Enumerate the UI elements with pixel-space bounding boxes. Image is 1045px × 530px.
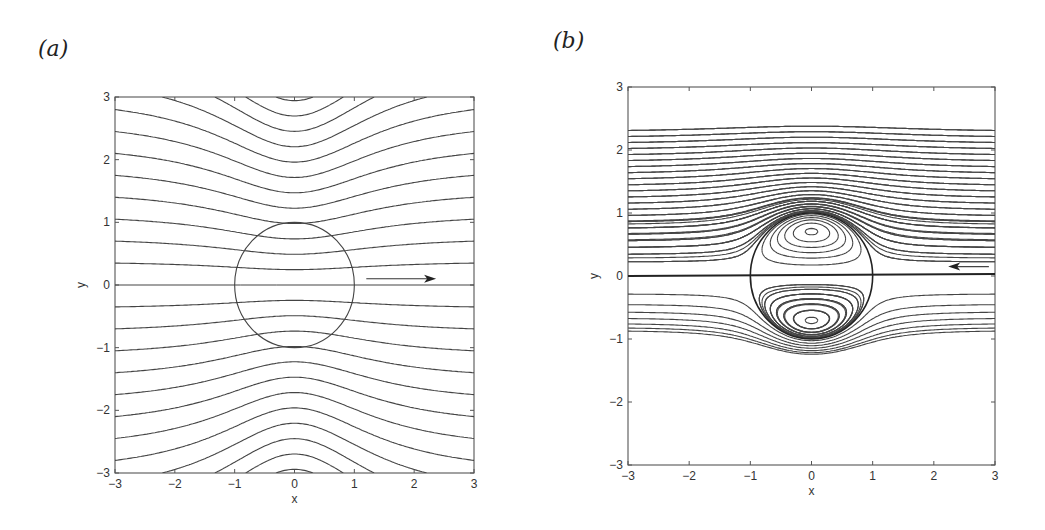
streamline xyxy=(628,132,995,137)
figure-canvas: −3−2−10123−3−2−10123xy −3−2−10123−3−2−10… xyxy=(0,0,1045,530)
streamline xyxy=(628,126,995,130)
plot-b-xlabel: x xyxy=(809,484,815,498)
streamline xyxy=(115,132,474,178)
streamline xyxy=(628,218,995,346)
streamline xyxy=(628,178,995,191)
streamline xyxy=(215,439,374,473)
plot-a-xtick-label: 3 xyxy=(471,477,478,491)
streamline xyxy=(628,153,995,160)
streamline xyxy=(115,241,474,254)
plot-b-xtick-label: 0 xyxy=(808,469,815,483)
plot-a-ytick-label: 2 xyxy=(103,153,110,167)
plot-b-dividing-streamline xyxy=(628,274,995,276)
plot-b-xtick-label: −2 xyxy=(682,469,696,483)
plot-b-ytick-label: 3 xyxy=(616,80,623,94)
plot-b-xtick-label: 3 xyxy=(992,469,999,483)
streamline xyxy=(115,263,474,270)
plot-a-xtick-label: −2 xyxy=(168,477,182,491)
plot-b-ytick-label: 0 xyxy=(616,269,623,283)
streamline xyxy=(115,300,474,307)
streamline xyxy=(162,423,426,473)
plot-b-ytick-label: 2 xyxy=(616,143,623,157)
streamline xyxy=(628,173,995,184)
streamline xyxy=(115,347,474,373)
plot-b-ytick-label: −3 xyxy=(609,458,623,472)
plot-a-ytick-label: 1 xyxy=(103,215,110,229)
streamline xyxy=(215,97,374,131)
plot-a-ytick-label: −3 xyxy=(96,466,110,480)
streamline xyxy=(162,97,426,147)
plot-a-xtick-label: −1 xyxy=(228,477,242,491)
streamline xyxy=(115,110,474,163)
streamline xyxy=(115,377,474,416)
plot-a-ylabel: y xyxy=(74,282,88,288)
streamline xyxy=(628,206,995,334)
streamline xyxy=(628,137,995,142)
plot-b-ytick-label: 1 xyxy=(616,206,623,220)
streamline xyxy=(115,175,474,208)
streamline xyxy=(115,393,474,439)
streamline xyxy=(628,207,995,335)
plot-b-xtick-label: 2 xyxy=(930,469,937,483)
plot-a-xtick-label: 0 xyxy=(291,477,298,491)
plot-a-xtick-label: −3 xyxy=(108,477,122,491)
plot-b-xtick-label: −3 xyxy=(621,469,635,483)
streamline xyxy=(115,197,474,223)
streamline xyxy=(115,408,474,461)
plot-a-streamlines: −3−2−10123−3−2−10123xy xyxy=(74,90,478,506)
plot-a-xtick-label: 1 xyxy=(351,477,358,491)
plot-b-ytick-label: −2 xyxy=(609,395,623,409)
streamline xyxy=(115,362,474,395)
streamline xyxy=(628,207,995,335)
plot-a-xlabel: x xyxy=(292,492,298,506)
streamline xyxy=(115,316,474,329)
plot-b-xtick-label: 1 xyxy=(869,469,876,483)
plot-b-xtick-label: −1 xyxy=(743,469,757,483)
plot-b-streamlines: −3−2−10123−3−2−10123xy xyxy=(587,80,999,498)
plot-a-xtick-label: 2 xyxy=(411,477,418,491)
plot-a-ytick-label: −2 xyxy=(96,403,110,417)
plot-b-ylabel: y xyxy=(587,273,601,279)
plot-a-ytick-label: −1 xyxy=(96,341,110,355)
plot-a-ytick-label: 3 xyxy=(103,90,110,104)
plot-a-ytick-label: 0 xyxy=(103,278,110,292)
streamline xyxy=(115,153,474,192)
plot-b-ytick-label: −1 xyxy=(609,332,623,346)
